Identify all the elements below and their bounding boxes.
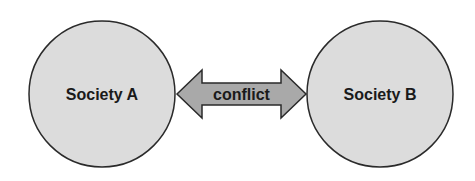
- conflict-label: conflict: [213, 86, 271, 103]
- conflict-arrow: conflict: [177, 70, 306, 118]
- society-b-label: Society B: [344, 86, 417, 103]
- node-society-a: Society A: [29, 21, 175, 167]
- diagram-canvas: Society A Society B conflict: [0, 0, 475, 181]
- society-a-label: Society A: [66, 86, 139, 103]
- node-society-b: Society B: [307, 21, 453, 167]
